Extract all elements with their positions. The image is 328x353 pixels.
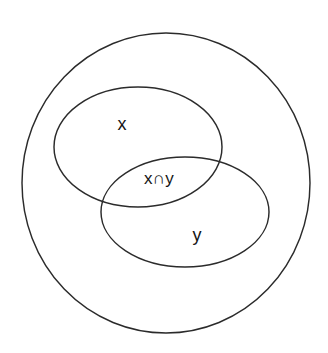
venn-diagram-canvas: x x∩y y <box>0 0 328 353</box>
set-x-outline <box>54 87 222 207</box>
set-y-outline <box>101 157 269 267</box>
venn-diagram-svg: x x∩y y <box>0 0 328 353</box>
set-x-intersect-y-label: x∩y <box>144 169 174 188</box>
set-y-label: y <box>192 225 201 245</box>
set-x-label: x <box>117 114 126 134</box>
